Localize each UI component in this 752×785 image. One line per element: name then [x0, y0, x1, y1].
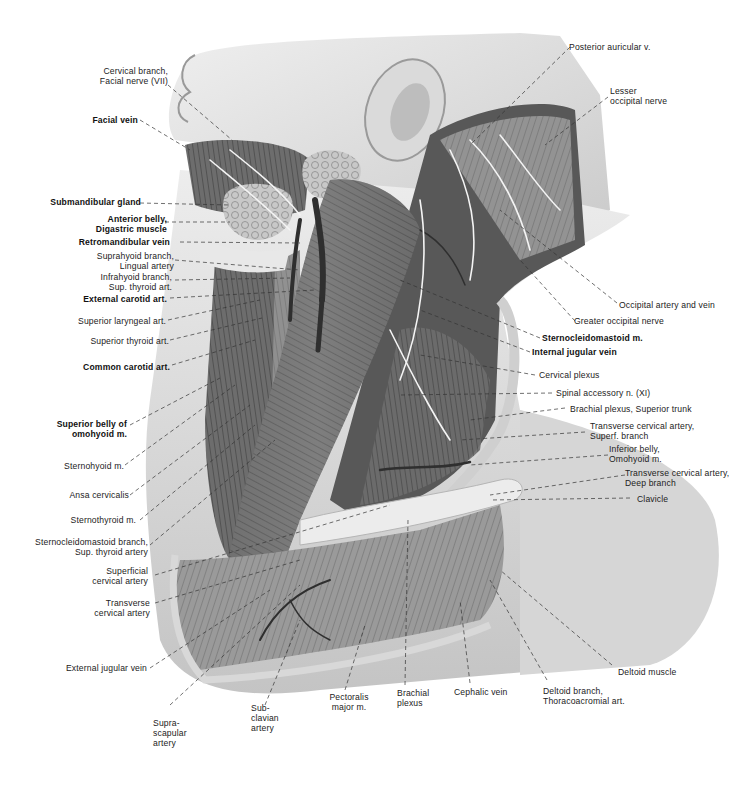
label-superior-laryngeal: Superior laryngeal art. [78, 316, 166, 326]
label-superficial-cervical-artery: Superficialcervical artery [92, 566, 148, 586]
label-cervical-plexus: Cervical plexus [539, 370, 600, 380]
label-submandibular-gland: Submandibular gland [50, 197, 141, 207]
label-deltoid-branch-thoracoacromial: Deltoid branch,Thoracoacromial art. [543, 686, 625, 706]
label-anterior-belly-digastric: Anterior belly,Digastric muscle [96, 214, 167, 234]
label-internal-jugular-vein: Internal jugular vein [532, 347, 617, 357]
label-cephalic-vein: Cephalic vein [454, 687, 508, 697]
label-occipital-artery-vein: Occipital artery and vein [619, 300, 715, 310]
label-inferior-belly-omohyoid: Inferior belly,Omohyoid m. [609, 444, 662, 464]
label-sternocleidomastoid: Sternocleidomastoid m. [542, 333, 643, 343]
label-superior-belly-omohyoid: Superior belly ofomohyoid m. [57, 419, 127, 439]
label-tca-superficial-branch: Transverse cervical artery,Superf. branc… [590, 421, 694, 441]
label-common-carotid: Common carotid art. [83, 362, 170, 372]
label-spinal-accessory-nerve: Spinal accessory n. (XI) [556, 388, 650, 398]
label-external-carotid: External carotid art. [83, 294, 167, 304]
label-pectoralis-major: Pectoralismajor m. [320, 692, 378, 712]
label-infrahyoid-branch: Infrahyoid branch,Sup. thyroid art. [101, 272, 173, 292]
label-brachial-plexus-superior-trunk: Brachial plexus, Superior trunk [570, 404, 692, 414]
label-suprascapular-artery: Supra-scapularartery [153, 718, 187, 749]
label-sternothyroid: Sternothyroid m. [71, 515, 136, 525]
label-suprahyoid-branch: Suprahyoid branch,Lingual artery [97, 251, 174, 271]
label-posterior-auricular-v: Posterior auricular v. [569, 42, 650, 52]
label-retromandibular-vein: Retromandibular vein [79, 237, 170, 247]
label-cervical-branch-facial-nerve: Cervical branch,Facial nerve (VII) [100, 66, 168, 86]
label-facial-vein: Facial vein [92, 115, 138, 125]
label-transverse-cervical-artery: Transversecervical artery [94, 598, 150, 618]
label-scm-branch-sup-thyroid: Sternocleidomastoid branch,Sup. thyroid … [35, 537, 148, 557]
label-greater-occipital-nerve: Greater occipital nerve [574, 316, 664, 326]
label-external-jugular-vein: External jugular vein [66, 663, 147, 673]
label-brachial-plexus: Brachialplexus [397, 688, 429, 708]
label-tca-deep-branch: Transverse cervical artery,Deep branch [625, 468, 729, 488]
label-clavicle: Clavicle [637, 494, 668, 504]
label-lesser-occipital-nerve: Lesseroccipital nerve [610, 86, 667, 106]
label-ansa-cervicalis: Ansa cervicalis [69, 490, 129, 500]
label-deltoid-muscle: Deltoid muscle [618, 667, 676, 677]
label-subclavian-artery: Sub-clavianartery [251, 703, 279, 734]
label-sternohyoid: Sternohyoid m. [64, 461, 124, 471]
label-superior-thyroid: Superior thyroid art. [90, 336, 169, 346]
